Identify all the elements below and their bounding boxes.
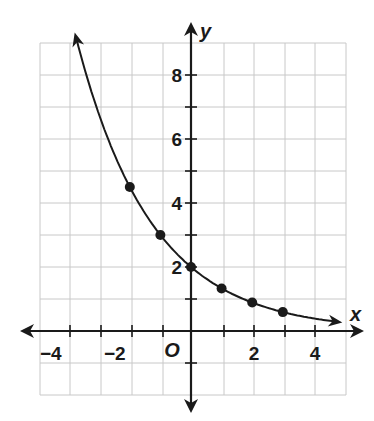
x-tick-label: −2	[104, 343, 126, 364]
y-tick-label: 4	[171, 193, 182, 214]
grid	[40, 43, 346, 395]
exponential-curve	[73, 32, 343, 326]
origin-label: O	[164, 339, 180, 361]
y-tick-label: 8	[171, 65, 182, 86]
x-tick-label: −4	[40, 343, 62, 364]
x-tick-label: 4	[310, 343, 321, 364]
y-tick-label: 2	[171, 257, 182, 278]
data-points	[125, 182, 288, 317]
data-point	[125, 182, 135, 192]
x-axis-label: x	[349, 303, 362, 325]
data-point	[278, 307, 288, 317]
x-tick-label: 2	[249, 343, 260, 364]
tick-labels: −4 −2 2 4 8 6 4 2 O y x	[40, 20, 362, 364]
data-point	[155, 230, 165, 240]
data-point	[217, 283, 227, 293]
coordinate-plane: −4 −2 2 4 8 6 4 2 O y x	[0, 0, 374, 421]
y-tick-label: 6	[171, 129, 182, 150]
data-point	[186, 262, 196, 272]
data-point	[247, 298, 257, 308]
y-axis	[184, 22, 198, 413]
y-axis-label: y	[199, 20, 212, 42]
